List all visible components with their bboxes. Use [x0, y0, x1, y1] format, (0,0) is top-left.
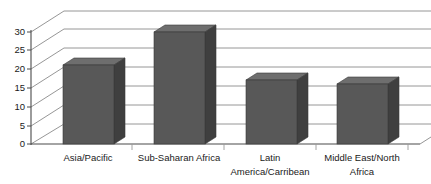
y-tick-label-10: 10: [14, 101, 25, 112]
depth-line-15: [31, 86, 64, 107]
bar-middle-east-north-africa[interactable]: [337, 77, 399, 144]
category-label-latin-america-carribean-line1: Latin: [260, 152, 281, 163]
y-axis-tick-labels: 30 25 20 15 10 5 0: [14, 26, 25, 149]
floor-right-edge: [420, 137, 431, 144]
y-tick-label-15: 15: [14, 82, 25, 93]
bar-asia-pacific-front-face: [63, 65, 114, 144]
bar-sub-saharan-africa-side-face: [205, 25, 216, 144]
y-tick-label-0: 0: [20, 138, 25, 149]
bar-asia-pacific[interactable]: [63, 58, 125, 144]
depth-line-5: [31, 124, 64, 144]
y-tick-label-25: 25: [14, 44, 25, 55]
bar-sub-saharan-africa[interactable]: [154, 25, 216, 144]
bar-chart-figure: 30 25 20 15 10 5 0: [0, 0, 431, 184]
bar-sub-saharan-africa-front-face: [154, 32, 205, 144]
category-label-middle-east-north-africa-line2: Africa: [350, 166, 375, 177]
depth-line-10: [31, 105, 64, 126]
category-label-latin-america-carribean-line2: America/Carribean: [230, 166, 309, 177]
y-tick-label-5: 5: [20, 120, 25, 131]
bar-middle-east-north-africa-front-face: [337, 84, 388, 144]
depth-connectors-group: [31, 11, 64, 144]
depth-line-25: [31, 48, 64, 69]
chart-canvas: 30 25 20 15 10 5 0: [0, 0, 431, 184]
y-axis: [27, 30, 31, 145]
bar-latin-america-carribean-side-face: [297, 73, 308, 144]
depth-line-top: [31, 11, 64, 32]
category-label-sub-saharan-africa: Sub-Saharan Africa: [138, 152, 221, 163]
bar-latin-america-carribean-front-face: [246, 80, 297, 144]
bar-latin-america-carribean[interactable]: [246, 73, 308, 144]
category-label-middle-east-north-africa-line1: Middle East/North: [324, 152, 400, 163]
y-tick-label-30: 30: [14, 26, 25, 37]
category-label-asia-pacific: Asia/Pacific: [63, 152, 112, 163]
bar-middle-east-north-africa-side-face: [388, 77, 399, 144]
depth-line-20: [31, 67, 64, 88]
x-axis-category-labels: Asia/Pacific Sub-Saharan Africa Latin Am…: [63, 152, 399, 177]
depth-line-30: [31, 29, 64, 50]
y-tick-label-20: 20: [14, 63, 25, 74]
bar-asia-pacific-side-face: [114, 58, 125, 144]
x-axis-category-dividers: [132, 144, 408, 150]
